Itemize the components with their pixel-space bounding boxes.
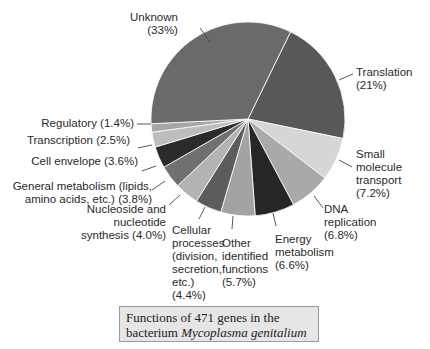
label-unknown: Unknown(33%) (130, 11, 178, 37)
pie-slices (151, 22, 345, 216)
label-cell-envelope: Cell envelope (3.6%) (31, 155, 138, 168)
label-regulatory: Regulatory (1.4%) (41, 117, 134, 130)
caption-line1: Functions of 471 genes in the (126, 310, 279, 325)
label-general-metabolism: General metabolism (lipids,amino acids, … (13, 180, 152, 206)
caption-species: Mycoplasma genitalium (181, 325, 306, 340)
label-nucleoside-synthesis: Nucleoside andnucleotidesynthesis (4.0%) (81, 203, 166, 242)
label-energy-metabolism: Energymetabolism(6.6%) (275, 233, 334, 272)
label-cellular-processes: Cellularprocesses(division,secretion,etc… (172, 224, 224, 302)
figure-caption: Functions of 471 genes in the bacterium … (119, 306, 319, 342)
label-other-identified-functions: Otheridentifiedfunctions(5.7%) (222, 237, 268, 289)
label-translation: Translation(21%) (356, 66, 412, 92)
label-transcription: Transcription (2.5%) (27, 134, 130, 147)
label-small-molecule-transport: Smallmoleculetransport(7.2%) (356, 148, 402, 200)
caption-line2: bacterium (126, 325, 181, 340)
